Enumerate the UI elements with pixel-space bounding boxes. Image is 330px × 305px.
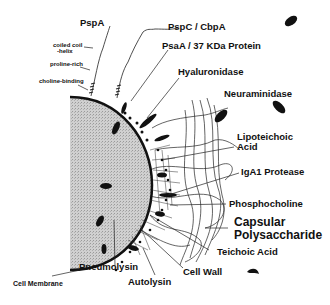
label-capsular-line2: Polysaccharide — [234, 228, 322, 242]
label-coiled-coil-line2: -helix — [53, 48, 73, 54]
label-teichoic-acid: Teichoic Acid — [217, 247, 278, 257]
label-pneumolysin: Pneumolysin — [79, 262, 138, 272]
label-phosphocholine: Phosphocholine — [229, 199, 303, 209]
label-cell-membrane: Cell Membrane — [13, 280, 63, 287]
label-iga1-protease: IgA1 Protease — [241, 167, 304, 177]
label-cell-wall: Cell Wall — [183, 267, 222, 277]
label-autolysin: Autolysin — [128, 277, 171, 287]
label-lipoteichoic-line2: Acid — [237, 141, 258, 152]
label-pspc: PspC / CbpA — [168, 22, 226, 32]
label-coiled-coil: coiled coil -helix — [53, 42, 82, 55]
label-hyaluronidase: Hyaluronidase — [178, 67, 243, 77]
label-choline-binding: choline-binding — [39, 78, 84, 84]
label-pspa: PspA — [80, 18, 104, 28]
capsule-strands — [140, 98, 240, 265]
label-psaa: PsaA / 37 KDa Protein — [162, 41, 261, 51]
label-capsular-polysaccharide: Capsular Polysaccharide — [234, 216, 322, 241]
label-lipoteichoic: Lipoteichoic Acid — [237, 132, 293, 152]
label-coiled-coil-line1: coiled coil — [53, 42, 82, 48]
cell-cytoplasm — [70, 97, 152, 270]
label-neuraminidase: Neuraminidase — [224, 89, 292, 99]
label-proline-rich: proline-rich — [50, 61, 83, 67]
surface-fibres — [91, 26, 178, 98]
